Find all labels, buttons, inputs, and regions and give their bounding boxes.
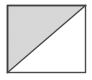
- half-shaded-square-figure: [0, 0, 92, 80]
- figure-canvas: Square divided by a diagonal with the up…: [0, 0, 92, 80]
